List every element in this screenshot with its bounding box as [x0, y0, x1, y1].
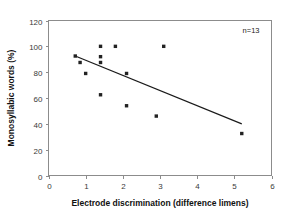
trend-line-group — [75, 56, 242, 124]
data-point — [78, 61, 81, 64]
scatter-plot-figure: 020406080100120 0123456 n=13 Electrode d… — [0, 0, 287, 214]
chart-canvas: 020406080100120 0123456 n=13 Electrode d… — [0, 0, 287, 214]
data-point — [99, 61, 102, 64]
x-tick-label: 3 — [158, 182, 163, 191]
regression-trend-line — [75, 56, 242, 124]
y-tick-label: 0 — [38, 173, 43, 182]
x-tick-label: 4 — [195, 182, 200, 191]
x-tick-label: 5 — [232, 182, 237, 191]
y-tick-label: 100 — [29, 43, 43, 52]
data-point — [74, 54, 77, 57]
data-point — [162, 45, 165, 48]
x-tick-label: 1 — [84, 182, 89, 191]
data-point — [114, 45, 117, 48]
y-tick-label: 80 — [34, 69, 43, 78]
sample-size-annotation: n=13 — [243, 26, 260, 35]
x-tick-label: 0 — [47, 182, 52, 191]
data-point — [240, 132, 243, 135]
data-point — [99, 45, 102, 48]
x-tick-label: 2 — [121, 182, 126, 191]
y-tick-label: 120 — [29, 18, 43, 27]
data-point — [99, 93, 102, 96]
data-point — [125, 104, 128, 107]
x-tick-label: 6 — [270, 182, 275, 191]
data-point — [155, 114, 158, 117]
data-point — [84, 72, 87, 75]
x-axis-title: Electrode discrimination (difference lim… — [71, 198, 248, 208]
x-axis-tick-labels: 0123456 — [47, 182, 275, 191]
y-axis-tick-labels: 020406080100120 — [29, 18, 43, 182]
y-axis-title: Monosyllabic words (%) — [6, 49, 16, 146]
y-tick-label: 40 — [34, 121, 43, 130]
y-tick-label: 20 — [34, 147, 43, 156]
data-point — [125, 72, 128, 75]
data-point — [99, 55, 102, 58]
y-tick-label: 60 — [34, 95, 43, 104]
plot-frame — [49, 21, 272, 176]
